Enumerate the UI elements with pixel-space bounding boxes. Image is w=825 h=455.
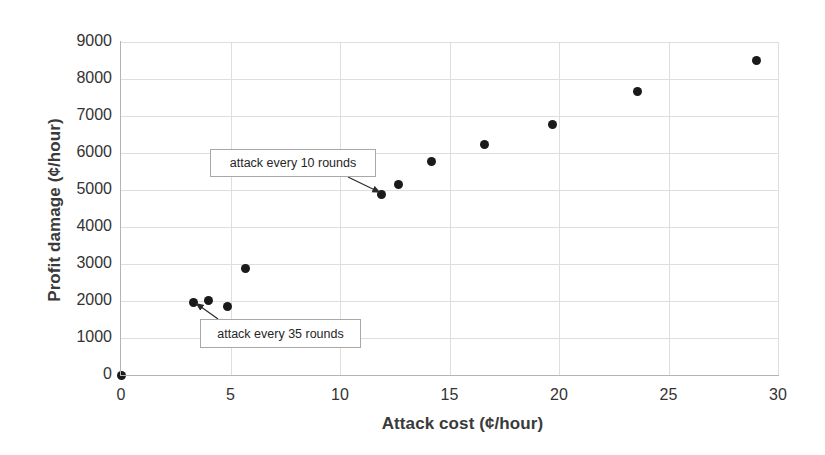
y-axis-tick-label: 7000 [52,106,112,124]
gridline-vertical [669,42,670,375]
data-point [548,120,557,129]
x-axis-tick-label: 5 [206,386,256,404]
y-axis-tick-label: 9000 [52,32,112,50]
x-axis-line [120,375,779,376]
y-axis-line [120,41,121,376]
data-point [394,180,403,189]
data-point [633,87,642,96]
gridline-vertical [559,42,560,375]
x-axis-tick-label: 25 [644,386,694,404]
annotation-attack-every-10-rounds: attack every 10 rounds [210,149,376,177]
x-axis-tick-label: 15 [425,386,475,404]
data-point [752,56,761,65]
y-axis-tick-label: 4000 [52,217,112,235]
data-point [427,157,436,166]
data-point [480,140,489,149]
data-point [223,302,232,311]
gridline-vertical [778,42,779,375]
y-axis-tick-label: 8000 [52,69,112,87]
y-axis-tick-label: 2000 [52,291,112,309]
data-point [241,264,250,273]
x-axis-tick-label: 10 [315,386,365,404]
x-axis-tick-label: 0 [96,386,146,404]
annotation-attack-every-35-rounds: attack every 35 rounds [200,319,361,348]
data-point [189,298,198,307]
data-point [377,190,386,199]
y-axis-tick-label: 3000 [52,254,112,272]
x-axis-tick-label: 20 [534,386,584,404]
scatter-chart-figure: Profit damage (¢/hour) Attack cost (¢/ho… [0,0,825,455]
x-axis-title: Attack cost (¢/hour) [0,414,825,434]
gridline-vertical [450,42,451,375]
y-axis-tick-label: 0 [52,365,112,383]
y-axis-tick-label: 5000 [52,180,112,198]
y-axis-tick-label: 1000 [52,328,112,346]
y-axis-tick-label: 6000 [52,143,112,161]
data-point [204,296,213,305]
x-axis-tick-label: 30 [753,386,803,404]
